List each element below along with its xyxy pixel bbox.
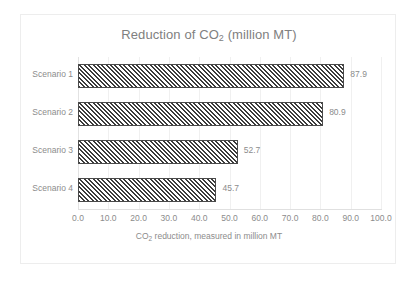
bar-row [78,133,381,171]
bar-row [78,57,381,95]
category-label: Scenario 2 [21,107,73,117]
bar-value-label: 80.9 [329,107,346,117]
x-tick-label: 0.0 [63,213,93,223]
gridline [381,57,382,209]
x-tick-label: 80.0 [305,213,335,223]
bar-value-label: 87.9 [350,69,367,79]
chart-title-before: Reduction of CO [121,27,219,42]
x-tick-label: 10.0 [93,213,123,223]
x-axis-title: CO2 reduction, measured in million MT [21,231,397,241]
x-tick-label: 60.0 [245,213,275,223]
x-tick-label: 70.0 [275,213,305,223]
chart-frame: Reduction of CO2 (million MT) CO2 reduct… [20,14,396,264]
chart-title-subscript: 2 [219,33,224,43]
x-axis-title-before: CO [136,231,149,241]
x-tick-label: 50.0 [215,213,245,223]
chart-title-after: (million MT) [224,27,297,42]
category-label: Scenario 1 [21,69,73,79]
category-label: Scenario 4 [21,183,73,193]
x-tick-label: 40.0 [184,213,214,223]
category-label: Scenario 3 [21,145,73,155]
bar-value-label: 45.7 [222,183,239,193]
x-axis-title-subscript: 2 [149,235,153,242]
chart-title: Reduction of CO2 (million MT) [21,27,397,42]
bar[interactable] [78,178,216,202]
x-tick-label: 100.0 [366,213,396,223]
x-tick-label: 20.0 [124,213,154,223]
x-axis-title-after: reduction, measured in million MT [152,231,282,241]
bar-value-label: 52.7 [244,145,261,155]
x-tick-label: 30.0 [154,213,184,223]
bar[interactable] [78,64,344,88]
x-axis-line [78,209,382,210]
bar[interactable] [78,102,323,126]
bar[interactable] [78,140,238,164]
x-tick-label: 90.0 [336,213,366,223]
